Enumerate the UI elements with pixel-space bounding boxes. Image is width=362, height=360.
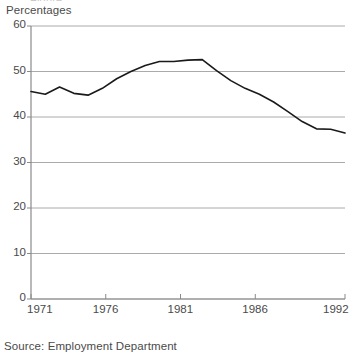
y-tick-label: 50 [4, 64, 26, 76]
plot-area: 6050403020100 19711976198119861992 [0, 0, 362, 330]
y-tick-label: 40 [4, 109, 26, 121]
gridlines [31, 26, 345, 299]
y-tick-label: 60 [4, 18, 26, 30]
x-tick-label: 1986 [242, 303, 268, 315]
x-tick-label: 1971 [27, 303, 53, 315]
series-line-percentage [31, 60, 345, 133]
x-tick-label: 1981 [168, 303, 194, 315]
y-tick-label: 0 [4, 291, 26, 303]
y-tick-label: 10 [4, 246, 26, 258]
line-chart-svg [0, 0, 362, 330]
chart-figure: Figure Percentages 6050403020100 1971197… [0, 0, 362, 360]
x-tick-label: 1976 [93, 303, 119, 315]
source-note: Source: Employment Department [4, 340, 177, 352]
x-tick-label: 1992 [323, 303, 349, 315]
y-tick-label: 30 [4, 155, 26, 167]
y-tick-label: 20 [4, 200, 26, 212]
